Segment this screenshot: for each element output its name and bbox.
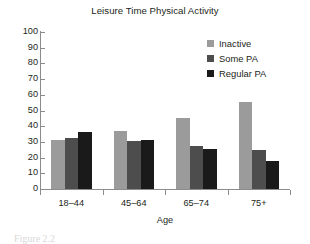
bar-regular-pa-65–74 xyxy=(203,149,217,189)
legend-item-label: Inactive xyxy=(219,39,251,48)
x-axis-tick xyxy=(40,190,41,195)
x-axis-tick xyxy=(290,190,291,195)
chart-legend: InactiveSome PARegular PA xyxy=(207,36,266,81)
x-axis-tick xyxy=(165,190,166,195)
legend-item-label: Some PA xyxy=(219,54,258,63)
legend-item-some-pa: Some PA xyxy=(207,51,266,66)
y-axis-tick-label: 40 xyxy=(28,121,38,130)
bar-some-pa-18–44 xyxy=(65,138,79,189)
legend-swatch-icon xyxy=(207,40,214,47)
y-axis-tick-label: 30 xyxy=(28,137,38,146)
bar-some-pa-75+ xyxy=(252,150,266,189)
x-axis-tick-label: 45–64 xyxy=(103,198,166,208)
legend-item-inactive: Inactive xyxy=(207,36,266,51)
y-axis-tick-label: 10 xyxy=(28,168,38,177)
y-axis-tick-label: 20 xyxy=(28,153,38,162)
bar-regular-pa-18–44 xyxy=(78,132,92,189)
bar-inactive-18–44 xyxy=(51,140,65,189)
bar-inactive-45–64 xyxy=(114,131,128,189)
x-axis-tick xyxy=(103,190,104,195)
bar-regular-pa-75+ xyxy=(266,161,280,189)
bar-some-pa-45–64 xyxy=(127,141,141,189)
legend-item-label: Regular PA xyxy=(219,69,266,78)
x-axis-tick xyxy=(228,190,229,195)
bar-regular-pa-45–64 xyxy=(141,140,155,189)
x-axis-title: Age xyxy=(40,215,290,225)
bar-inactive-75+ xyxy=(239,102,253,189)
figure-caption-fragment: Figure 2.2 xyxy=(14,233,55,244)
x-axis-tick-label: 65–74 xyxy=(165,198,228,208)
legend-swatch-icon xyxy=(207,70,214,77)
figure-container: Leisure Time Physical Activity 100908070… xyxy=(0,0,310,244)
y-axis-tick-label: 70 xyxy=(28,74,38,83)
y-axis-tick-label: 50 xyxy=(28,106,38,115)
y-axis-tick-label: 100 xyxy=(23,27,38,36)
legend-item-regular-pa: Regular PA xyxy=(207,66,266,81)
y-axis-tick-label: 0 xyxy=(33,184,38,193)
y-axis-tick-label: 60 xyxy=(28,90,38,99)
chart-title: Leisure Time Physical Activity xyxy=(0,5,310,16)
bar-inactive-65–74 xyxy=(176,118,190,189)
x-axis-tick-label: 18–44 xyxy=(40,198,103,208)
y-axis-tick xyxy=(41,189,45,190)
bar-some-pa-65–74 xyxy=(190,146,204,189)
y-axis-tick-label: 80 xyxy=(28,58,38,67)
x-axis-tick-label: 75+ xyxy=(228,198,291,208)
legend-swatch-icon xyxy=(207,55,214,62)
y-axis-tick-label: 90 xyxy=(28,43,38,52)
